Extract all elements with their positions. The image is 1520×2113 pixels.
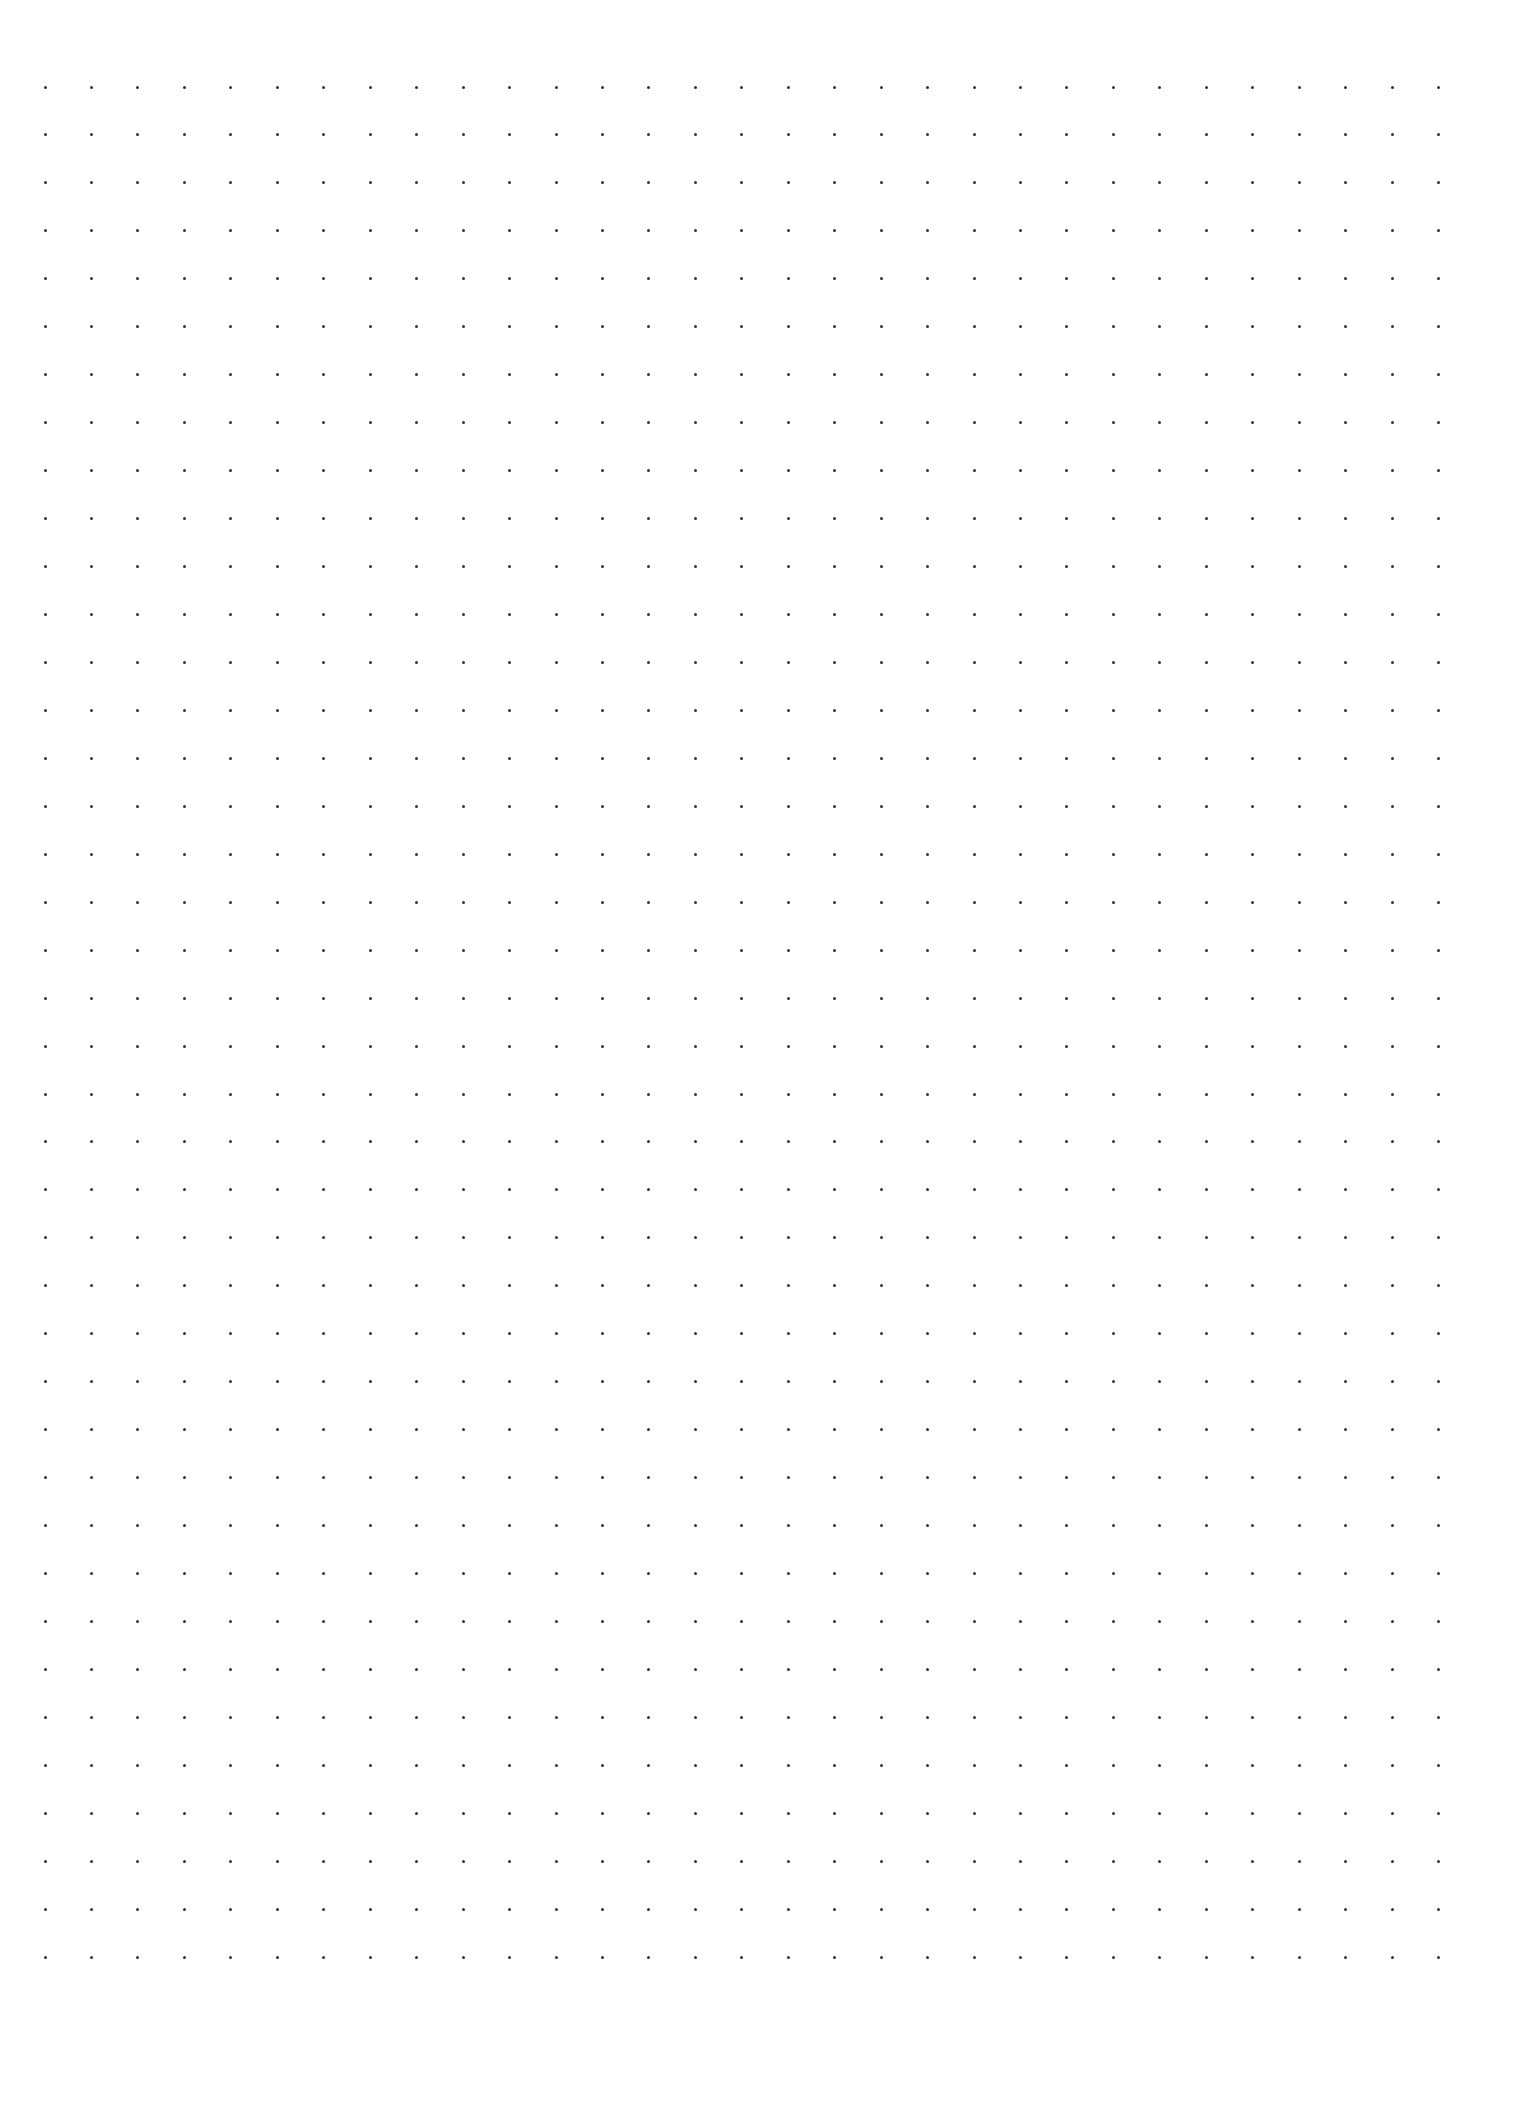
- grid-dot: [926, 1956, 929, 1959]
- grid-dot: [1391, 1908, 1394, 1911]
- grid-dot: [880, 181, 883, 184]
- grid-dot: [740, 1380, 743, 1383]
- grid-dot: [136, 1956, 139, 1959]
- dot-grid: [0, 0, 1520, 2113]
- grid-dot: [1251, 469, 1254, 472]
- grid-dot: [90, 1716, 93, 1719]
- grid-dot: [1344, 613, 1347, 616]
- grid-dot: [44, 661, 47, 664]
- grid-dot: [462, 1668, 465, 1671]
- grid-dot: [787, 757, 790, 760]
- grid-dot: [740, 181, 743, 184]
- grid-dot: [415, 517, 418, 520]
- grid-dot: [833, 613, 836, 616]
- grid-dot: [787, 1956, 790, 1959]
- grid-dot: [1298, 1188, 1301, 1191]
- grid-dot: [694, 277, 697, 280]
- grid-dot: [1205, 1045, 1208, 1048]
- grid-dot: [880, 86, 883, 89]
- grid-dot: [601, 757, 604, 760]
- grid-dot: [1112, 1956, 1115, 1959]
- grid-dot: [601, 613, 604, 616]
- grid-dot: [1391, 949, 1394, 952]
- grid-dot: [555, 709, 558, 712]
- grid-dot: [44, 325, 47, 328]
- grid-dot: [1437, 229, 1440, 232]
- grid-dot: [1065, 1908, 1068, 1911]
- grid-dot: [1251, 517, 1254, 520]
- grid-dot: [694, 1668, 697, 1671]
- grid-dot: [1391, 1236, 1394, 1239]
- grid-dot: [555, 1716, 558, 1719]
- grid-dot: [1251, 757, 1254, 760]
- grid-dot: [44, 1045, 47, 1048]
- grid-dot: [322, 1236, 325, 1239]
- grid-dot: [555, 1524, 558, 1527]
- grid-dot: [787, 469, 790, 472]
- grid-dot: [276, 1908, 279, 1911]
- grid-dot: [694, 133, 697, 136]
- grid-dot: [601, 229, 604, 232]
- grid-dot: [787, 1380, 790, 1383]
- grid-dot: [1205, 757, 1208, 760]
- grid-dot: [1298, 469, 1301, 472]
- grid-dot: [229, 421, 232, 424]
- grid-dot: [1391, 1332, 1394, 1335]
- grid-dot: [1065, 1620, 1068, 1623]
- grid-dot: [229, 1668, 232, 1671]
- grid-dot: [90, 181, 93, 184]
- grid-dot: [1391, 1284, 1394, 1287]
- grid-dot: [833, 181, 836, 184]
- grid-dot: [136, 86, 139, 89]
- grid-dot: [1205, 1860, 1208, 1863]
- grid-dot: [1019, 1908, 1022, 1911]
- grid-dot: [1065, 1572, 1068, 1575]
- grid-dot: [833, 757, 836, 760]
- grid-dot: [647, 1572, 650, 1575]
- grid-dot: [276, 133, 279, 136]
- grid-dot: [322, 1045, 325, 1048]
- grid-dot: [415, 1188, 418, 1191]
- grid-dot: [740, 325, 743, 328]
- grid-dot: [415, 1812, 418, 1815]
- grid-dot: [601, 1572, 604, 1575]
- grid-dot: [926, 565, 929, 568]
- grid-dot: [229, 853, 232, 856]
- grid-dot: [1437, 1428, 1440, 1431]
- grid-dot: [415, 229, 418, 232]
- grid-dot: [740, 1140, 743, 1143]
- grid-dot: [276, 277, 279, 280]
- grid-dot: [1019, 1764, 1022, 1767]
- grid-dot: [555, 1140, 558, 1143]
- grid-dot: [647, 661, 650, 664]
- grid-dot: [555, 1860, 558, 1863]
- grid-dot: [1205, 901, 1208, 904]
- grid-dot: [1019, 949, 1022, 952]
- grid-dot: [1158, 949, 1161, 952]
- grid-dot: [601, 1332, 604, 1335]
- grid-dot: [926, 469, 929, 472]
- grid-dot: [1019, 1620, 1022, 1623]
- grid-dot: [508, 613, 511, 616]
- grid-dot: [1344, 1188, 1347, 1191]
- grid-dot: [787, 613, 790, 616]
- grid-dot: [90, 1812, 93, 1815]
- grid-dot: [90, 86, 93, 89]
- grid-dot: [276, 949, 279, 952]
- grid-dot: [601, 1764, 604, 1767]
- grid-dot: [1344, 1860, 1347, 1863]
- grid-dot: [973, 86, 976, 89]
- grid-dot: [694, 1524, 697, 1527]
- grid-dot: [136, 1236, 139, 1239]
- grid-dot: [787, 1140, 790, 1143]
- grid-dot: [973, 1284, 976, 1287]
- grid-dot: [926, 1812, 929, 1815]
- grid-dot: [1065, 853, 1068, 856]
- grid-dot: [1437, 613, 1440, 616]
- grid-dot: [1391, 517, 1394, 520]
- grid-dot: [1298, 661, 1301, 664]
- grid-dot: [647, 1236, 650, 1239]
- grid-dot: [508, 1093, 511, 1096]
- grid-dot: [973, 613, 976, 616]
- grid-dot: [1344, 517, 1347, 520]
